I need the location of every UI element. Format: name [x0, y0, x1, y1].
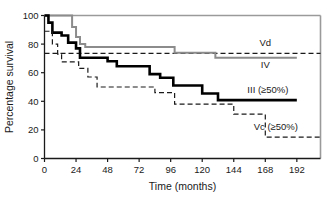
y-axis-tick-label: 0 [33, 153, 38, 164]
x-axis-tick-label: 96 [165, 164, 176, 175]
x-axis-tick-label: 72 [134, 164, 145, 175]
y-axis-title: Percentage survival [3, 41, 15, 133]
survival-chart-figure: 020406080100024487296120144168192Time (m… [0, 0, 335, 200]
y-axis-tick-label: 80 [28, 39, 39, 50]
series-label-vc-50: Vc (≥50%) [254, 121, 298, 132]
series-label-iv: IV [261, 59, 271, 70]
series-label-iii-50: III (≥50%) [247, 84, 288, 95]
series-label-vd: Vd [259, 37, 271, 48]
y-axis-tick-label: 100 [23, 10, 39, 21]
y-axis-tick-label: 20 [28, 124, 39, 135]
x-axis-title: Time (months) [149, 180, 216, 192]
x-axis-tick-label: 24 [71, 164, 82, 175]
kaplan-meier-plot: 020406080100024487296120144168192Time (m… [0, 0, 335, 200]
y-axis-tick-label: 40 [28, 96, 39, 107]
x-axis-tick-label: 0 [42, 164, 47, 175]
x-axis-tick-label: 144 [226, 164, 242, 175]
y-axis-tick-label: 60 [28, 67, 39, 78]
x-axis-tick-label: 168 [257, 164, 273, 175]
x-axis-tick-label: 120 [194, 164, 210, 175]
x-axis-tick-label: 48 [102, 164, 113, 175]
x-axis-tick-label: 192 [289, 164, 305, 175]
